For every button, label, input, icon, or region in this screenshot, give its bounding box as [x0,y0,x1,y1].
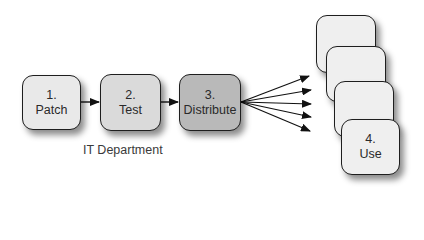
step-number: 2. [125,88,135,103]
fanout-arrows [241,76,311,131]
step-label: Test [119,103,142,118]
step-patch: 1. Patch [22,75,81,130]
step-number: 4. [365,132,375,147]
step-number: 3. [205,88,215,103]
step-label: Distribute [184,103,237,118]
step-test: 2. Test [100,74,161,131]
step-number: 1. [46,88,56,103]
step-use: 4. Use [341,119,400,175]
step-distribute: 3. Distribute [179,74,241,131]
step-label: Patch [36,103,68,118]
group-caption: IT Department [83,143,163,157]
step-label: Use [359,147,381,162]
